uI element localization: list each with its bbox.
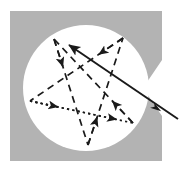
white-circle bbox=[23, 25, 149, 151]
geometric-figure bbox=[0, 0, 190, 172]
figure-container bbox=[0, 0, 190, 172]
